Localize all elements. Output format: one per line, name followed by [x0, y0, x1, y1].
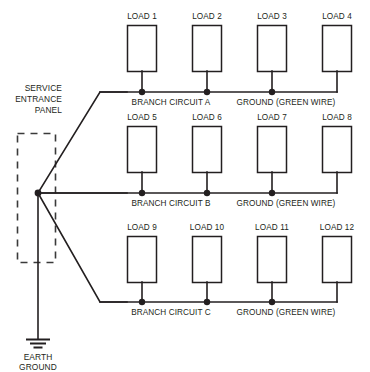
service-entrance-panel-label-line1: SERVICE	[25, 83, 63, 93]
load-label-3: LOAD 3	[257, 12, 287, 21]
load-label-12: LOAD 12	[320, 223, 355, 232]
ground-wire-label-c: GROUND (GREEN WIRE)	[237, 308, 336, 317]
ground-wire-label-a: GROUND (GREEN WIRE)	[237, 98, 336, 107]
load-label-11: LOAD 11	[255, 223, 289, 232]
node-load-6	[204, 190, 210, 196]
earth-ground-label-line1: EARTH	[24, 352, 53, 362]
wiring-diagram-canvas: SERVICE ENTRANCE PANEL EARTH GROUND LOAD…	[0, 0, 370, 372]
wiring-diagram: SERVICE ENTRANCE PANEL EARTH GROUND LOAD…	[0, 0, 370, 372]
branch-circuit-a-label: BRANCH CIRCUIT A	[132, 98, 211, 107]
branch-circuit-b-label: BRANCH CIRCUIT B	[131, 199, 211, 208]
service-entrance-panel-label-line2: ENTRANCE	[15, 94, 62, 104]
node-load-11	[269, 299, 275, 305]
load-label-8: LOAD 8	[322, 113, 352, 122]
node-load-9	[139, 299, 145, 305]
earth-ground-label-line2: GROUND	[19, 362, 57, 372]
load-label-1: LOAD 1	[127, 12, 157, 21]
load-box-12[interactable]	[323, 237, 352, 283]
load-label-5: LOAD 5	[127, 113, 157, 122]
node-load-10	[204, 299, 210, 305]
service-entrance-panel-label-line3: PANEL	[35, 105, 63, 115]
load-box-10[interactable]	[193, 237, 222, 283]
node-load-5	[139, 190, 145, 196]
load-label-6: LOAD 6	[192, 113, 222, 122]
node-load-7	[269, 190, 275, 196]
ground-wire-label-b: GROUND (GREEN WIRE)	[237, 199, 336, 208]
load-label-9: LOAD 9	[127, 223, 157, 232]
load-label-10: LOAD 10	[190, 223, 225, 232]
load-box-11[interactable]	[258, 237, 287, 283]
node-load-1	[139, 89, 145, 95]
load-box-9[interactable]	[128, 237, 157, 283]
load-box-2[interactable]	[193, 26, 222, 72]
node-load-3	[269, 89, 275, 95]
load-label-7: LOAD 7	[257, 113, 287, 122]
load-box-8[interactable]	[323, 127, 352, 173]
feeder-branch-circuit-c	[38, 193, 127, 302]
load-box-5[interactable]	[128, 127, 157, 173]
load-label-2: LOAD 2	[192, 12, 222, 21]
load-box-1[interactable]	[128, 26, 157, 72]
load-box-6[interactable]	[193, 127, 222, 173]
branch-circuit-c-label: BRANCH CIRCUIT C	[131, 308, 211, 317]
load-box-7[interactable]	[258, 127, 287, 173]
load-box-4[interactable]	[323, 26, 352, 72]
node-load-2	[204, 89, 210, 95]
load-box-3[interactable]	[258, 26, 287, 72]
service-entrance-panel-outline	[18, 134, 56, 263]
load-label-4: LOAD 4	[322, 12, 352, 21]
